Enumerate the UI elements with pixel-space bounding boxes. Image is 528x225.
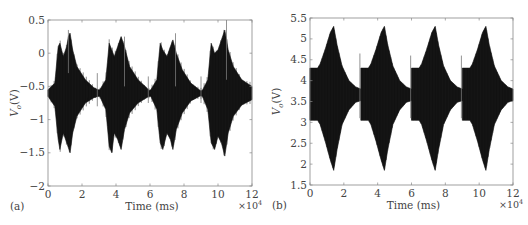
svg-text:2: 2 [300, 158, 307, 170]
svg-text:6: 6 [408, 187, 415, 199]
y-axis-label-b: Vo(V) [270, 88, 285, 116]
svg-text:4: 4 [374, 187, 381, 199]
svg-text:10: 10 [472, 187, 485, 199]
panel-label-b: (b) [272, 199, 287, 211]
svg-text:−0.5: −0.5 [20, 80, 46, 92]
svg-text:−1.5: −1.5 [20, 146, 46, 158]
waveform-b [310, 26, 513, 170]
chart-panel-a: 024681012 −2−1.5−1−0.500.5 Time (ms) ×10… [8, 14, 262, 213]
svg-text:8: 8 [442, 187, 449, 199]
svg-text:0: 0 [38, 47, 45, 59]
svg-text:5.5: 5.5 [290, 12, 307, 24]
svg-text:12: 12 [245, 188, 258, 200]
svg-text:0: 0 [307, 187, 314, 199]
svg-text:4: 4 [113, 188, 120, 200]
svg-text:1.5: 1.5 [290, 179, 307, 191]
panel-label-a: (a) [10, 200, 24, 212]
svg-text:3: 3 [300, 116, 307, 128]
svg-text:3.5: 3.5 [290, 95, 307, 107]
svg-text:−2: −2 [30, 180, 45, 192]
svg-text:−1: −1 [30, 113, 45, 125]
svg-text:2.5: 2.5 [290, 137, 307, 149]
svg-text:2: 2 [340, 187, 347, 199]
svg-text:10: 10 [211, 188, 224, 200]
y-axis-label-a: Vo(V) [8, 89, 23, 117]
x-multiplier-b: ×104 [499, 198, 523, 210]
x-axis-label-b: Time (ms) [387, 199, 440, 211]
svg-text:6: 6 [147, 188, 154, 200]
x-axis-label-a: Time (ms) [125, 200, 178, 212]
svg-text:12: 12 [506, 187, 519, 199]
waveform-a [48, 30, 252, 156]
svg-text:0: 0 [45, 188, 52, 200]
svg-text:4.5: 4.5 [290, 53, 307, 65]
svg-text:0.5: 0.5 [28, 14, 45, 26]
svg-text:5: 5 [300, 32, 307, 44]
x-multiplier-a: ×104 [238, 199, 262, 211]
svg-text:4: 4 [300, 74, 307, 86]
svg-text:8: 8 [181, 188, 188, 200]
chart-panel-b: 024681012 1.522.533.544.555.5 Time (ms) … [270, 12, 523, 212]
figure: 024681012 −2−1.5−1−0.500.5 Time (ms) ×10… [0, 0, 528, 225]
svg-text:2: 2 [79, 188, 86, 200]
